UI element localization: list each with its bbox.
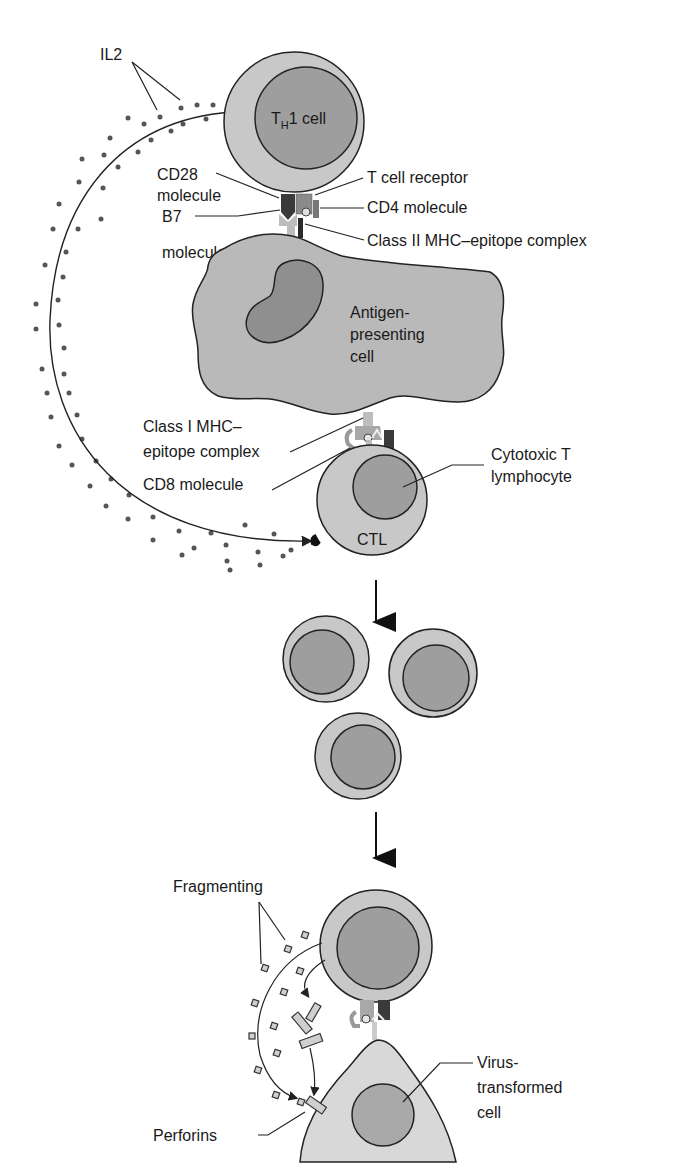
antigen-presenting-cell: Antigen- presenting cell <box>192 234 503 414</box>
apc-label-line3: cell <box>350 348 374 365</box>
ctl-clone-2 <box>389 629 477 717</box>
virus-label-line1: Virus- <box>477 1054 519 1071</box>
ctl-clone-1 <box>283 616 369 702</box>
tcr-label: T cell receptor <box>367 169 469 186</box>
th1-label-suffix: 1 cell <box>289 110 326 127</box>
class1-label-line1: Class I MHC– <box>143 418 242 435</box>
cd4-label: CD4 molecule <box>367 199 468 216</box>
class2-label: Class II MHC–epitope complex <box>367 232 587 249</box>
il2-receptor-icon <box>312 535 321 545</box>
cd28-label-line1: CD28 <box>157 166 198 183</box>
ctl-label: CTL <box>357 531 387 548</box>
b7-label-line1: B7 <box>162 208 182 225</box>
cd8-label: CD8 molecule <box>143 476 244 493</box>
ctl-desc-line2: lymphocyte <box>491 468 572 485</box>
th1-label-prefix: T <box>271 110 281 127</box>
perforin-path-arrow <box>310 1048 315 1094</box>
apc-label-line1: Antigen- <box>350 304 410 321</box>
perforin-release-arrow <box>305 960 325 996</box>
virus-transformed-cell <box>300 1040 456 1162</box>
ctl-desc-line1: Cytotoxic T <box>491 446 571 463</box>
il2-label: IL2 <box>100 46 122 63</box>
virus-label-line3: cell <box>477 1104 501 1121</box>
fragmenting-label: Fragmenting <box>173 878 263 895</box>
ctl-clone-3 <box>315 713 401 799</box>
ctl-target-receptor-complex <box>351 1000 390 1040</box>
ctl-activation-diagram: IL2 TH1 cell CD28 molecule B7 molecule T… <box>0 0 679 1171</box>
th1-apc-receptor-complex <box>279 194 319 238</box>
ctl-cell: CTL <box>317 445 427 555</box>
perforin-rods <box>292 1003 327 1114</box>
cd28-label-line2: molecule <box>157 187 221 204</box>
class1-label-line2: epitope complex <box>143 443 260 460</box>
ctl-clones <box>283 616 477 799</box>
attacking-ctl-cell <box>320 890 432 1002</box>
th1-label-sub: H <box>281 119 289 131</box>
th1-cell: TH1 cell <box>224 52 364 192</box>
perforins-label: Perforins <box>153 1127 217 1144</box>
apc-label-line2: presenting <box>350 326 425 343</box>
virus-label-line2: transformed <box>477 1079 562 1096</box>
